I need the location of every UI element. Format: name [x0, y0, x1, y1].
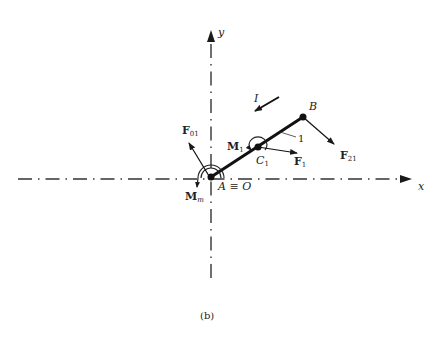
moment-mm-label: Mm [185, 191, 204, 204]
moment-mm-symbol: M [185, 190, 197, 203]
inertia-label: I [254, 93, 258, 104]
x-axis [18, 175, 412, 183]
force-f1-label: F1 [294, 156, 306, 169]
origin-label: A ≡ O [218, 181, 251, 192]
y-axis-arrow-icon [207, 30, 215, 42]
link-number-label: 1 [298, 134, 304, 144]
force-f21-symbol: F [340, 149, 348, 162]
force-f01-arrow-icon [189, 143, 209, 176]
moment-m1-subscript: 1 [239, 146, 243, 154]
mechanism-diagram [0, 0, 444, 340]
point-c1-label: C1 [256, 155, 269, 168]
moment-m1-symbol: M [227, 140, 239, 153]
x-axis-label: x [418, 181, 424, 192]
force-f21-label: F21 [340, 150, 357, 163]
force-f01-subscript: 01 [190, 130, 199, 138]
x-axis-arrow-icon [400, 175, 412, 183]
force-f21-subscript: 21 [348, 155, 357, 163]
moment-mm-arrow-icon [197, 178, 198, 187]
link-label-leader [280, 132, 296, 137]
point-c1-subscript: 1 [264, 160, 268, 168]
force-f1-subscript: 1 [302, 161, 306, 169]
y-axis-label: y [218, 27, 224, 38]
moment-m1-label: M1 [227, 141, 244, 154]
force-f01-symbol: F [182, 124, 190, 137]
y-axis [207, 30, 215, 278]
force-f01-label: F01 [182, 125, 199, 138]
force-f21-arrow-icon [303, 117, 334, 144]
moment-mm-subscript: m [197, 196, 204, 204]
point-b-label: B [309, 101, 317, 112]
force-f1-arrow-icon [258, 147, 297, 153]
figure-caption: (b) [200, 311, 214, 321]
force-f1-symbol: F [294, 155, 302, 168]
inertia-arrow-icon [255, 97, 279, 111]
